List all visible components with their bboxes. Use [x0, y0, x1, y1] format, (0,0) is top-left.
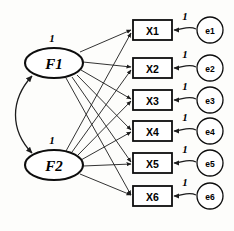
error-node-e2[interactable]: e2 — [197, 55, 223, 81]
indicator-label-x1: X1 — [146, 25, 159, 37]
loading-path-f1-x5 — [72, 77, 131, 162]
loading-path-f1-x2 — [83, 62, 131, 67]
factor-node-f2[interactable]: F2 — [25, 150, 83, 180]
error-label-e4: e4 — [205, 127, 215, 137]
error-path-e6-x6 — [174, 193, 196, 196]
error-path-e2-x2 — [174, 65, 196, 68]
diagram-canvas: F1 F2 1 1 X1 X2 X3 X4 X5 — [0, 0, 234, 231]
indicator-label-x4: X4 — [146, 126, 159, 138]
error-path-e1-x1 — [174, 27, 196, 30]
error-path-label-e1: 1 — [182, 10, 188, 22]
factor-label-f2: F2 — [44, 158, 63, 174]
indicator-node-x2[interactable]: X2 — [133, 58, 172, 78]
indicator-node-x5[interactable]: X5 — [133, 153, 172, 173]
error-path-label-e3: 1 — [182, 80, 188, 92]
indicator-node-x6[interactable]: X6 — [133, 186, 172, 206]
indicator-node-x3[interactable]: X3 — [133, 90, 172, 110]
variance-label-f1: 1 — [49, 32, 55, 44]
indicator-label-x3: X3 — [146, 95, 159, 107]
covariance-path-f1-f2 — [16, 76, 33, 153]
error-label-e5: e5 — [205, 159, 215, 169]
error-path-label-e6: 1 — [182, 176, 188, 188]
error-path-e5-x5 — [174, 160, 196, 163]
error-label-e3: e3 — [205, 96, 215, 106]
error-path-label-e5: 1 — [182, 143, 188, 155]
indicator-node-x1[interactable]: X1 — [133, 20, 172, 40]
variance-label-f2: 1 — [49, 134, 55, 146]
factor-node-f1[interactable]: F1 — [25, 48, 83, 78]
loading-path-f1-x1 — [80, 30, 131, 52]
sem-path-diagram: F1 F2 1 1 X1 X2 X3 X4 X5 — [0, 0, 234, 231]
error-node-e1[interactable]: e1 — [197, 17, 223, 43]
factor-label-f1: F1 — [44, 56, 63, 72]
error-label-e6: e6 — [205, 192, 215, 202]
loading-path-f1-x3 — [81, 70, 131, 99]
indicator-label-x5: X5 — [146, 158, 159, 170]
error-path-label-e2: 1 — [182, 48, 188, 60]
indicator-label-x2: X2 — [146, 63, 159, 75]
indicator-node-x4[interactable]: X4 — [133, 121, 172, 141]
error-node-e3[interactable]: e3 — [197, 87, 223, 113]
error-node-e6[interactable]: e6 — [197, 183, 223, 209]
error-node-e5[interactable]: e5 — [197, 150, 223, 176]
loading-path-f1-x6 — [66, 78, 131, 195]
error-path-e3-x3 — [174, 97, 196, 100]
error-label-e2: e2 — [205, 64, 215, 74]
error-path-e4-x4 — [174, 128, 196, 131]
loading-path-f2-x6 — [80, 174, 131, 195]
indicator-label-x6: X6 — [146, 191, 159, 203]
loading-path-f2-x1 — [66, 33, 131, 151]
error-label-e1: e1 — [205, 26, 215, 36]
error-path-label-e4: 1 — [182, 111, 188, 123]
error-node-e4[interactable]: e4 — [197, 118, 223, 144]
loading-path-f2-x5 — [83, 164, 131, 166]
loading-path-f2-x4 — [81, 132, 131, 160]
